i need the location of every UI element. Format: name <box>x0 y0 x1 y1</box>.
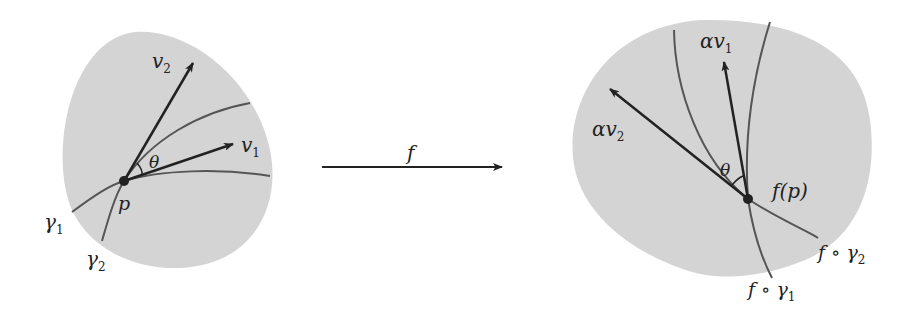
label-f-gamma2: f ∘ γ2 <box>816 241 865 267</box>
label-theta-right: θ <box>720 160 730 180</box>
label-f: f <box>405 141 418 165</box>
right-region <box>573 20 872 277</box>
label-theta-left: θ <box>149 152 159 172</box>
point-p <box>119 176 129 186</box>
conformal-map-diagram: v2 v1 θ p γ1 γ2 f αv1 <box>0 0 916 320</box>
right-diagram: αv1 αv2 θ f(p) f ∘ γ2 f ∘ γ1 <box>573 20 872 304</box>
left-diagram: v2 v1 θ p γ1 γ2 <box>44 32 272 274</box>
label-f-gamma1: f ∘ γ1 <box>746 278 795 304</box>
label-gamma1: γ1 <box>44 210 64 237</box>
label-p: p <box>118 192 130 214</box>
label-fp: f(p) <box>770 179 808 203</box>
label-gamma2: γ2 <box>86 247 106 274</box>
point-fp <box>743 194 753 204</box>
map-arrow: f <box>322 141 502 167</box>
